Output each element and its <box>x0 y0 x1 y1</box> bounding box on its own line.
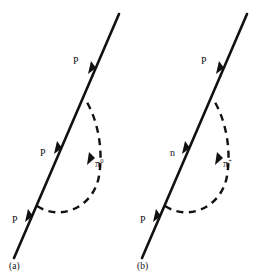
arrowhead-a-meson <box>87 152 95 165</box>
label-proton-bottom-b: P <box>140 215 146 225</box>
caption-panel-b: (b) <box>137 262 148 272</box>
fermion-line-b <box>142 14 247 258</box>
meson-charge-a: 0 <box>100 157 103 164</box>
label-meson-a: π0 <box>95 158 104 169</box>
label-proton-middle-a: P <box>40 148 46 158</box>
fermion-line-a <box>14 14 119 258</box>
label-proton-bottom-a: P <box>12 215 18 225</box>
caption-panel-a: (a) <box>9 262 20 272</box>
label-proton-top-a: P <box>73 56 79 66</box>
label-meson-b: π+ <box>223 158 232 169</box>
figure-root: P P P π0 (a) P n P π+ (b) <box>0 0 257 280</box>
diagram-b-graphic <box>128 0 256 280</box>
label-proton-top-b: P <box>201 56 207 66</box>
diagram-a-graphic <box>0 0 128 280</box>
meson-charge-b: + <box>228 157 232 164</box>
label-neutron-middle-b: n <box>170 148 175 158</box>
diagram-panel-b: P n P π+ (b) <box>128 0 256 280</box>
arrowhead-b-meson <box>215 152 223 165</box>
diagram-panel-a: P P P π0 (a) <box>0 0 128 280</box>
